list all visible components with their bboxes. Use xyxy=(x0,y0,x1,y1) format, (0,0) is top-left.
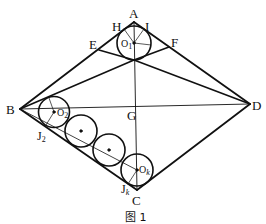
radius-O2-J2 xyxy=(46,112,54,125)
center-chain-2-dot xyxy=(80,130,82,132)
label-G: G xyxy=(127,108,136,123)
label-B: B xyxy=(6,102,15,117)
geometry-figure: A H I E F B D G C O1 O2 Ok J2 Jk 图 1 xyxy=(0,0,266,224)
label-O1: O1 xyxy=(121,38,132,51)
side-AB xyxy=(20,22,134,109)
label-I: I xyxy=(145,19,149,34)
line-B-to-tangent xyxy=(20,60,134,109)
side-CD xyxy=(137,104,250,190)
radius-O2-up xyxy=(49,98,54,112)
label-F: F xyxy=(171,35,178,50)
center-chain-3-dot xyxy=(108,149,110,151)
label-E: E xyxy=(89,37,97,52)
segment-F-tangent xyxy=(134,47,169,60)
radius-O1-I xyxy=(134,29,144,43)
center-O1-dot xyxy=(133,42,135,44)
label-A: A xyxy=(129,6,139,21)
label-Ok: Ok xyxy=(139,164,150,177)
radius-Ok-Jk xyxy=(128,170,137,184)
side-BC xyxy=(20,109,137,190)
label-D: D xyxy=(252,98,261,113)
label-H: H xyxy=(112,19,121,34)
side-AD xyxy=(134,22,250,104)
figure-caption: 图 1 xyxy=(125,211,147,224)
label-J2: J2 xyxy=(37,129,46,144)
label-C: C xyxy=(132,193,141,208)
diagonal-AC xyxy=(134,22,137,190)
line-D-to-tangent xyxy=(134,60,250,104)
radius-O1-F xyxy=(134,43,151,45)
label-O2: O2 xyxy=(57,107,68,120)
